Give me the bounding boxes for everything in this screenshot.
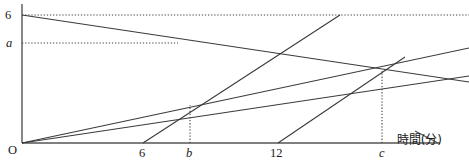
origin-label: O <box>8 143 17 158</box>
line-rise-from-12 <box>278 57 405 143</box>
x-tick-label-12: 12 <box>270 146 283 161</box>
y-tick-label-6: 6 <box>5 8 11 23</box>
y-tick-label-a: a <box>6 36 12 51</box>
graph-figure: 6 a O 6 b 12 c 時間(分) <box>0 0 469 166</box>
x-tick-label-c: c <box>379 146 385 161</box>
line-descending-from-6 <box>22 15 469 82</box>
line-rise-from-origin-steep <box>22 48 469 143</box>
x-tick-label-b: b <box>186 146 192 161</box>
x-tick-label-6: 6 <box>139 146 145 161</box>
line-rise-from-6 <box>143 15 340 143</box>
x-axis-title: 時間(分) <box>397 130 442 147</box>
